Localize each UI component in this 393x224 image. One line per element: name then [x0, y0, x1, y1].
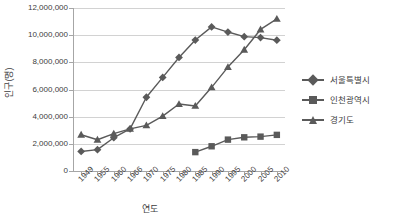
legend-label: 인천광역시	[330, 96, 370, 105]
legend-label: 경기도	[330, 116, 354, 125]
x-axis-tick-label: 2005	[257, 165, 275, 183]
x-axis-tick-label: 1980	[175, 165, 193, 183]
x-axis-tick-label: 1985	[191, 165, 209, 183]
x-axis-tick-label: 1990	[208, 165, 226, 183]
chart-legend: 서울특별시인천광역시경기도	[302, 70, 390, 130]
x-axis-tick-label: 1966	[126, 165, 144, 183]
legend-marker	[309, 96, 317, 104]
legend-marker	[309, 116, 317, 124]
legend-label: 서울특별시	[330, 76, 370, 85]
x-axis-tick-label: 1995	[224, 165, 242, 183]
legend-item[interactable]: 경기도	[302, 110, 390, 130]
legend-marker	[307, 74, 318, 85]
legend-diamond-marker-icon	[302, 75, 324, 85]
population-line-chart: 02,000,0004,000,0006,000,0008,000,00010,…	[0, 0, 393, 224]
legend-square-marker-icon	[302, 95, 324, 105]
x-axis-tick-label: 2010	[273, 165, 291, 183]
legend-item[interactable]: 인천광역시	[302, 90, 390, 110]
x-axis-tick-label: 1949	[77, 165, 95, 183]
legend-item[interactable]: 서울특별시	[302, 70, 390, 90]
x-axis-title: 연도	[0, 205, 300, 214]
x-axis-tick-label: 1955	[93, 165, 111, 183]
x-axis-tick-label: 1960	[110, 165, 128, 183]
x-axis-tick-label: 1975	[159, 165, 177, 183]
legend-triangle-marker-icon	[302, 115, 324, 125]
x-axis-tick-label: 1970	[142, 165, 160, 183]
x-axis-tick-label: 2000	[240, 165, 258, 183]
